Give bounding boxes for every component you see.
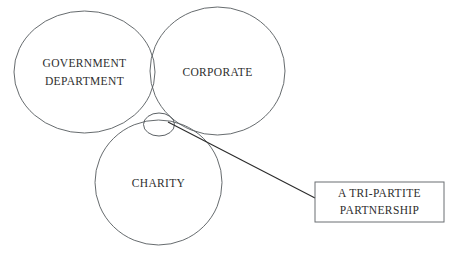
label-charity: CHARITY bbox=[132, 177, 186, 189]
circle-government-department[interactable] bbox=[14, 11, 155, 133]
label-government-department-line1: GOVERNMENT bbox=[43, 57, 127, 69]
venn-diagram: GOVERNMENT DEPARTMENT CORPORATE CHARITY … bbox=[0, 0, 462, 254]
diagram-canvas: GOVERNMENT DEPARTMENT CORPORATE CHARITY … bbox=[0, 0, 462, 254]
label-corporate: CORPORATE bbox=[182, 66, 252, 78]
label-government-department-line2: DEPARTMENT bbox=[45, 75, 124, 87]
circle-intersection-hub[interactable] bbox=[144, 113, 175, 136]
leader-line-to-callout bbox=[168, 122, 315, 198]
callout-label-line2: PARTNERSHIP bbox=[340, 204, 419, 216]
callout-label-line1: A TRI-PARTITE bbox=[338, 187, 421, 199]
